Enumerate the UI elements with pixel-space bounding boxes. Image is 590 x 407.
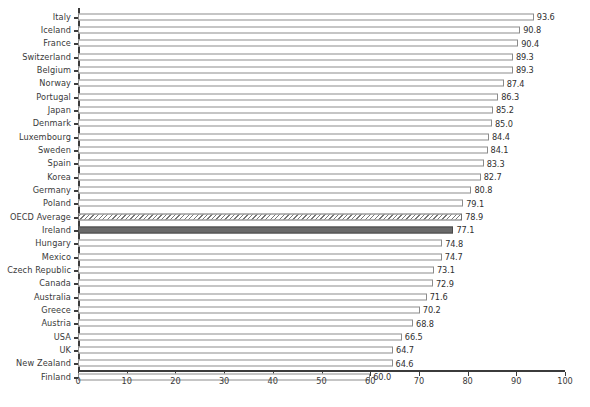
bar-row: Luxembourg84.4 bbox=[78, 130, 565, 143]
bar: 89.3 bbox=[78, 66, 513, 73]
bar-value-label: 83.3 bbox=[487, 158, 505, 168]
category-label: Spain bbox=[48, 158, 71, 168]
bar-row: Hungary74.8 bbox=[78, 237, 565, 250]
bar-row: New Zealand64.6 bbox=[78, 357, 565, 370]
bar-row: Italy93.6 bbox=[78, 10, 565, 23]
bar-row: Switzerland89.3 bbox=[78, 50, 565, 63]
x-tick-label: 90 bbox=[511, 376, 521, 386]
bar: 66.5 bbox=[78, 333, 402, 340]
bar-row: Mexico74.7 bbox=[78, 250, 565, 263]
bar-row: Spain83.3 bbox=[78, 157, 565, 170]
category-label: Austria bbox=[41, 318, 71, 328]
category-label: France bbox=[43, 38, 71, 48]
bar-rows: Italy93.6Iceland90.8France90.4Switzerlan… bbox=[78, 10, 565, 370]
bar-row: Japan85.2 bbox=[78, 103, 565, 116]
category-label: New Zealand bbox=[16, 358, 71, 368]
bar: 71.6 bbox=[78, 293, 427, 300]
category-label: UK bbox=[59, 345, 71, 355]
bar-value-label: 74.7 bbox=[445, 252, 463, 262]
bar-value-label: 90.8 bbox=[523, 25, 541, 35]
bar-row: UK64.7 bbox=[78, 343, 565, 356]
category-label: Korea bbox=[47, 172, 71, 182]
bar-value-label: 71.6 bbox=[430, 292, 448, 302]
bar: 85.0 bbox=[78, 120, 492, 127]
category-label: Mexico bbox=[42, 252, 71, 262]
plot-area: Italy93.6Iceland90.8France90.4Switzerlan… bbox=[78, 10, 565, 370]
bar-value-label: 70.2 bbox=[423, 305, 441, 315]
bar-row: Czech Republic73.1 bbox=[78, 263, 565, 276]
x-tick-label: 50 bbox=[316, 376, 326, 386]
x-tick-label: 70 bbox=[414, 376, 424, 386]
bar-row: Canada72.9 bbox=[78, 277, 565, 290]
bar: 93.6 bbox=[78, 13, 534, 20]
bar: 84.1 bbox=[78, 146, 488, 153]
x-tick-label: 60 bbox=[365, 376, 375, 386]
bar-row: Korea82.7 bbox=[78, 170, 565, 183]
bar-value-label: 80.8 bbox=[474, 185, 492, 195]
bar-value-label: 78.9 bbox=[465, 212, 483, 222]
category-label: Hungary bbox=[35, 238, 71, 248]
bar-value-label: 79.1 bbox=[466, 198, 484, 208]
bar-row: Portugal86.3 bbox=[78, 90, 565, 103]
bar-value-label: 66.5 bbox=[405, 332, 423, 342]
category-label: Norway bbox=[39, 78, 71, 88]
bar-chart: Italy93.6Iceland90.8France90.4Switzerlan… bbox=[0, 0, 590, 407]
bar-value-label: 64.6 bbox=[396, 358, 414, 368]
bar: 79.1 bbox=[78, 200, 463, 207]
bar: 72.9 bbox=[78, 280, 433, 287]
bar-value-label: 93.6 bbox=[537, 12, 555, 22]
category-label: Ireland bbox=[42, 225, 71, 235]
bar-value-label: 87.4 bbox=[507, 78, 525, 88]
bar-value-label: 64.7 bbox=[396, 345, 414, 355]
bar-row: Austria68.8 bbox=[78, 317, 565, 330]
bar: 87.4 bbox=[78, 80, 504, 87]
bar-row: Poland79.1 bbox=[78, 197, 565, 210]
bar-row: Australia71.6 bbox=[78, 290, 565, 303]
bar-row: Ireland77.1 bbox=[78, 223, 565, 236]
category-label: USA bbox=[54, 332, 71, 342]
bar: 85.2 bbox=[78, 106, 493, 113]
category-label: Australia bbox=[34, 292, 71, 302]
bar-value-label: 84.1 bbox=[491, 145, 509, 155]
bar: 77.1 bbox=[78, 226, 453, 233]
bar-row: Greece70.2 bbox=[78, 303, 565, 316]
bar-value-label: 85.0 bbox=[495, 118, 513, 128]
x-tick-label: 40 bbox=[268, 376, 278, 386]
x-tick-label: 80 bbox=[462, 376, 472, 386]
bar-row: Germany80.8 bbox=[78, 183, 565, 196]
bar-value-label: 85.2 bbox=[496, 105, 514, 115]
bar: 83.3 bbox=[78, 160, 484, 167]
bar-value-label: 72.9 bbox=[436, 278, 454, 288]
x-tick-label: 100 bbox=[557, 376, 573, 386]
bar-row: USA66.5 bbox=[78, 330, 565, 343]
category-label: Japan bbox=[48, 105, 71, 115]
bar-value-label: 84.4 bbox=[492, 132, 510, 142]
bar-row: Belgium89.3 bbox=[78, 63, 565, 76]
category-label: Denmark bbox=[33, 118, 71, 128]
category-label: Italy bbox=[53, 12, 71, 22]
bar-value-label: 77.1 bbox=[456, 225, 474, 235]
bar-row: Norway87.4 bbox=[78, 77, 565, 90]
bar: 68.8 bbox=[78, 320, 413, 327]
bar-row: OECD Average78.9 bbox=[78, 210, 565, 223]
x-tick-label: 20 bbox=[170, 376, 180, 386]
bar: 90.8 bbox=[78, 26, 520, 33]
category-label: Greece bbox=[41, 305, 71, 315]
x-tick-label: 30 bbox=[219, 376, 229, 386]
bar: 64.6 bbox=[78, 360, 393, 367]
x-tick-label: 10 bbox=[121, 376, 131, 386]
category-label: Iceland bbox=[41, 25, 71, 35]
bar: 78.9 bbox=[78, 213, 462, 220]
bar-row: France90.4 bbox=[78, 37, 565, 50]
bar: 64.7 bbox=[78, 346, 393, 353]
bar: 82.7 bbox=[78, 173, 481, 180]
category-label: Czech Republic bbox=[7, 265, 71, 275]
bar-row: Denmark85.0 bbox=[78, 117, 565, 130]
bar: 70.2 bbox=[78, 306, 420, 313]
category-label: Portugal bbox=[36, 92, 71, 102]
bar-value-label: 90.4 bbox=[521, 38, 539, 48]
bar-row: Sweden84.1 bbox=[78, 143, 565, 156]
bar-value-label: 89.3 bbox=[516, 65, 534, 75]
bar-value-label: 73.1 bbox=[437, 265, 455, 275]
bar: 90.4 bbox=[78, 40, 518, 47]
